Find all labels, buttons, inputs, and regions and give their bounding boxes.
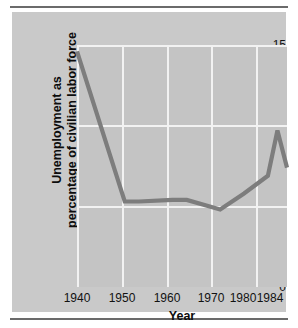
top-rule xyxy=(10,6,288,8)
y-axis-title-line1: Unemployment as xyxy=(50,9,65,251)
x-tick-label-1984: 1984 xyxy=(250,292,290,304)
x-tick-label-1940: 1940 xyxy=(57,292,97,304)
x-axis-title: Year xyxy=(77,309,287,323)
x-tick-label-1950: 1950 xyxy=(102,292,142,304)
plot-area xyxy=(77,45,287,287)
x-tick-label-1960: 1960 xyxy=(147,292,187,304)
chart-panel: 15 10 5 0 Unemployment as percentage of … xyxy=(12,12,286,312)
data-series-unemployment-rate xyxy=(77,45,287,287)
y-axis-title: Unemployment as percentage of civilian l… xyxy=(50,9,80,251)
figure: 15 10 5 0 Unemployment as percentage of … xyxy=(0,0,298,328)
